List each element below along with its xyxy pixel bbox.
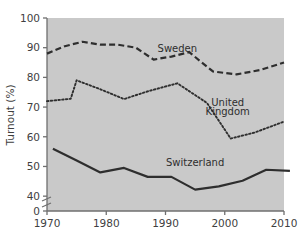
y-tick-label: 90 bbox=[27, 41, 40, 53]
y-axis-title: Turnout (%) bbox=[4, 85, 16, 147]
x-tick-label: 1970 bbox=[34, 217, 61, 229]
y-tick-label: 40 bbox=[27, 190, 40, 202]
chart-figure: Voter turnout in national elections 0405… bbox=[0, 0, 300, 249]
series-label-sweden: Sweden bbox=[158, 43, 198, 54]
y-axis-ticks: 0405060708090100 bbox=[20, 12, 47, 217]
y-tick-label: 50 bbox=[27, 160, 40, 172]
y-tick-label: 80 bbox=[27, 71, 40, 83]
x-tick-label: 2010 bbox=[271, 217, 298, 229]
series-label-united-kingdom-line2: Kingdom bbox=[206, 106, 250, 117]
x-axis-ticks: 19701980199020002010 bbox=[34, 211, 298, 229]
x-tick-label: 2000 bbox=[211, 217, 238, 229]
x-tick-label: 1990 bbox=[152, 217, 179, 229]
y-tick-label: 100 bbox=[20, 12, 40, 24]
line-chart-svg: 0405060708090100 19701980199020002010 Sw… bbox=[0, 0, 300, 249]
x-tick-label: 1980 bbox=[93, 217, 120, 229]
y-tick-label: 60 bbox=[27, 131, 40, 143]
y-tick-label: 70 bbox=[27, 101, 40, 113]
y-tick-label: 0 bbox=[33, 205, 40, 217]
series-label-switzerland: Switzerland bbox=[166, 157, 224, 168]
